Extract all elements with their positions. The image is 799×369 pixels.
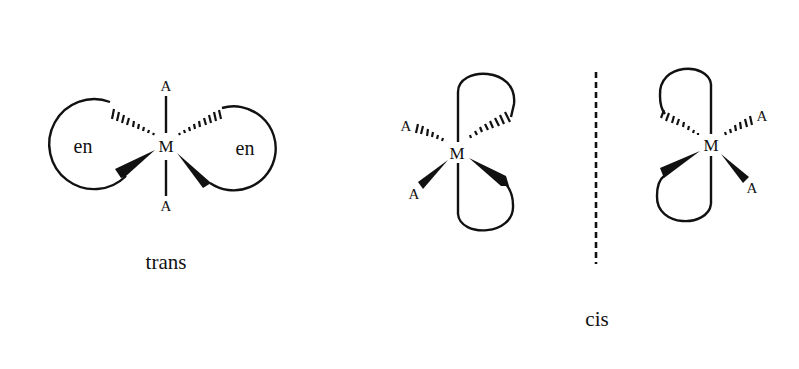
cis-isomer-right: A M A: [657, 69, 768, 221]
wedge-bond-lower-left: [418, 160, 448, 189]
wedge-bond-lower-right: [721, 154, 749, 183]
ligand-a-lower: A: [747, 180, 758, 196]
metal-center: M: [449, 144, 464, 163]
metal-center: M: [703, 136, 718, 155]
hashed-bond-upper-left: [661, 110, 698, 135]
wedge-bond-lower-right: [469, 158, 509, 186]
hashed-bond-left: [112, 109, 154, 135]
metal-center: M: [158, 137, 173, 156]
hashed-bond-upper-left: [416, 124, 443, 141]
caption-trans: trans: [146, 250, 187, 274]
chelate-ring-top: [660, 69, 711, 114]
hashed-bond-right: [179, 110, 221, 135]
chelate-ring-bottom: [657, 176, 711, 221]
ligand-a-lower: A: [409, 186, 420, 202]
chelate-ring-bottom: [458, 184, 513, 230]
wedge-bond-lower-left: [660, 151, 700, 178]
ligand-a-bottom: A: [161, 198, 172, 214]
chelate-ring-top: [458, 74, 514, 117]
hashed-bond-upper-right: [725, 116, 752, 135]
caption-cis: cis: [585, 307, 608, 331]
hashed-bond-upper-right: [470, 112, 510, 138]
ligand-a-top: A: [161, 78, 172, 94]
chelate-label-right: en: [236, 137, 255, 159]
trans-isomer: A M A en en trans: [49, 78, 275, 274]
wedge-bond-left: [115, 150, 155, 178]
wedge-bond-right: [177, 153, 211, 188]
isomer-diagram: A M A en en trans: [0, 0, 799, 369]
cis-isomer-left: A M A: [401, 74, 515, 231]
ligand-a-upper: A: [401, 118, 412, 134]
ligand-a-upper: A: [757, 108, 768, 124]
chelate-label-left: en: [74, 135, 93, 157]
